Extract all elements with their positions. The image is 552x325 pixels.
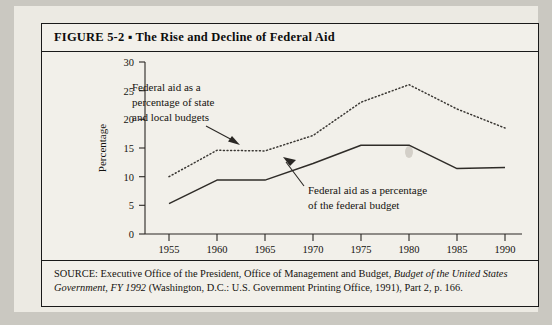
figure-box: FIGURE 5-2 ▪ The Rise and Decline of Fed…	[41, 23, 539, 307]
page-title: FIGURE 5-2 ▪ The Rise and Decline of Fed…	[42, 30, 335, 45]
x-tick-label: 1960	[207, 244, 228, 255]
y-axis-title: Percentage	[96, 124, 108, 172]
x-tick-label: 1965	[255, 244, 276, 255]
x-axis-ticks	[169, 234, 505, 241]
x-tick-label: 1970	[303, 244, 324, 255]
annotation-state-local: Federal aid as a percentage of state and…	[132, 81, 240, 145]
line-chart: 0 5 10 15 20 25 30 Percentage	[42, 52, 540, 261]
x-tick-label: 1985	[447, 244, 468, 255]
annotation-leader-line	[286, 162, 304, 186]
annotation-line: and local budgets	[132, 111, 209, 123]
y-tick-label: 30	[124, 57, 135, 68]
x-tick-label: 1990	[495, 244, 516, 255]
y-tick-label: 15	[124, 143, 135, 154]
figure-title-bar: FIGURE 5-2 ▪ The Rise and Decline of Fed…	[42, 24, 538, 52]
scan-smudge	[405, 146, 413, 158]
y-tick-label: 10	[124, 172, 135, 183]
series-state-local-budgets	[169, 85, 505, 177]
figure-source-note: SOURCE: Executive Office of the Presiden…	[42, 260, 538, 306]
scanned-page: FIGURE 5-2 ▪ The Rise and Decline of Fed…	[0, 0, 552, 325]
annotation-line: Federal aid as a percentage	[308, 184, 427, 196]
y-tick-label: 0	[129, 229, 134, 240]
x-tick-label: 1955	[159, 244, 180, 255]
paper-surface: FIGURE 5-2 ▪ The Rise and Decline of Fed…	[14, 6, 538, 312]
chart-plot-area: 0 5 10 15 20 25 30 Percentage	[42, 52, 540, 261]
source-suffix: (Washington, D.C.: U.S. Government Print…	[146, 282, 463, 293]
annotation-federal-budget: Federal aid as a percentage of the feder…	[283, 157, 427, 211]
x-axis-tick-labels: 1955 1960 1965 1970 1975 1980 1985 1990	[159, 244, 516, 255]
x-tick-label: 1975	[351, 244, 372, 255]
x-tick-label: 1980	[399, 244, 420, 255]
source-text: SOURCE: Executive Office of the Presiden…	[54, 267, 526, 295]
source-prefix: SOURCE: Executive Office of the Presiden…	[54, 268, 394, 279]
annotation-line: percentage of state	[132, 96, 215, 108]
arrowhead-icon	[283, 157, 296, 166]
annotation-line: of the federal budget	[308, 199, 399, 211]
y-tick-label: 5	[129, 200, 134, 211]
annotation-line: Federal aid as a	[132, 81, 201, 93]
arrowhead-icon	[228, 136, 240, 145]
